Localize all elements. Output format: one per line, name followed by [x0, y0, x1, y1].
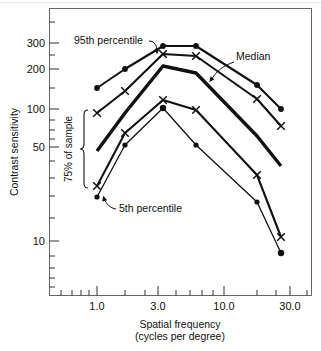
annotation-5th-percentile: 5th percentile [119, 202, 182, 214]
annotation-75-percent-of-sample: 75% of sample [63, 115, 74, 182]
contrast-sensitivity-chart: 300 200 100 50 10 1.0 3.0 10.0 30.0 Cont… [0, 0, 321, 351]
y-axis-title: Contrast sensitivity [8, 107, 20, 196]
y-tick-label: 100 [27, 103, 45, 115]
y-tick-label: 200 [27, 63, 45, 75]
y-tick-label: 10 [33, 235, 45, 247]
y-tick-label: 50 [33, 141, 45, 153]
y-tick-label: 300 [27, 37, 45, 49]
x-axis-subtitle: (cycles per degree) [135, 330, 225, 342]
annotation-median: Median [236, 50, 271, 62]
x-tick-label: 10.0 [213, 300, 234, 312]
x-axis-title: Spatial frequency [139, 318, 221, 330]
x-tick-label: 30.0 [279, 300, 300, 312]
annotation-95th-percentile: 95th percentile [74, 34, 143, 46]
x-tick-label: 1.0 [89, 300, 104, 312]
x-tick-label: 3.0 [150, 300, 165, 312]
plot-frame [50, 9, 312, 296]
